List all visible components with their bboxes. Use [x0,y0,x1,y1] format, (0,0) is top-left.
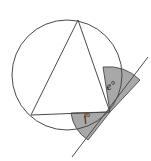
triangle-side-apex-to-tangent-point [78,20,110,112]
geometry-canvas: e° f° [0,0,151,161]
triangle-side-apex-to-left [31,20,78,115]
geometry-figure: e° f° [0,0,151,161]
